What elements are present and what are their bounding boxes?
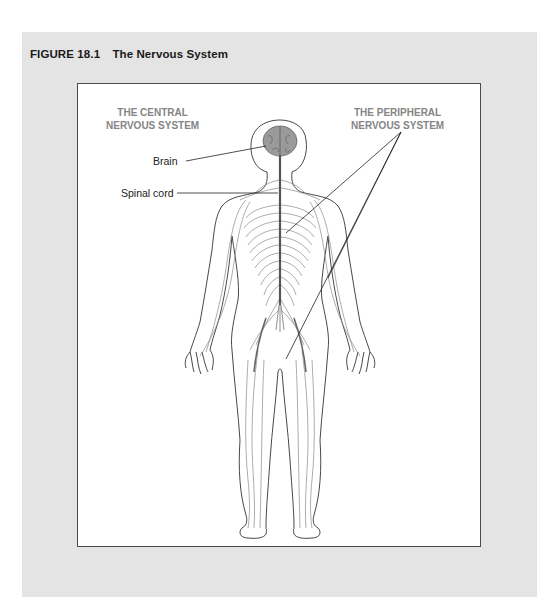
nervous-system-illustration bbox=[0, 0, 560, 609]
cauda-equina bbox=[276, 305, 284, 332]
brain bbox=[263, 126, 297, 156]
brain-leader-line bbox=[186, 146, 266, 161]
leader-lines bbox=[177, 132, 401, 359]
